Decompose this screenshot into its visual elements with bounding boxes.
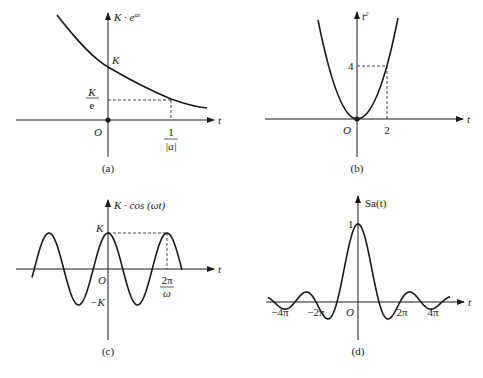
tick-K: K: [95, 222, 104, 234]
tick-period-den: ω: [163, 287, 171, 299]
tick-1-over-a-den: |a|: [165, 140, 177, 152]
x-axis-label: t: [468, 296, 472, 308]
panel-d-sampling-function: Sa(t) 1 O t −4π −2π 2π 4π (d): [266, 196, 472, 358]
origin-label: O: [98, 274, 106, 286]
exponential-curve: [57, 15, 207, 108]
tick-neg-K: −K: [90, 296, 105, 308]
origin-label: O: [343, 124, 351, 136]
tick-neg-4pi: −4π: [271, 306, 289, 318]
tick-4: 4: [348, 60, 354, 72]
tick-K-over-e-num: K: [87, 86, 96, 98]
panel-b-parabola: t2 4 2 O t (b): [265, 10, 471, 175]
tick-1: 1: [348, 218, 354, 230]
x-axis-label: t: [218, 114, 222, 126]
y-axis-label: K · cos (ωt): [113, 199, 165, 212]
x-axis-label: t: [467, 113, 471, 125]
panel-c-cosine: K · cos (ωt) K −K O t 2π ω (c): [16, 199, 222, 358]
panel-caption: (d): [352, 345, 365, 358]
tick-K: K: [111, 54, 120, 66]
panel-a-exponential: K · eat K K e O t 1 |a| (a): [16, 11, 222, 175]
x-axis-label: t: [218, 263, 222, 275]
tick-period-num: 2π: [161, 274, 173, 286]
tick-neg-2pi: −2π: [307, 306, 325, 318]
y-axis-label: Sa(t): [365, 197, 387, 210]
y-axis-label: K · eat: [113, 11, 141, 23]
tick-2pi: 2π: [396, 306, 408, 318]
tick-1-over-a-num: 1: [168, 126, 174, 138]
origin-dot: [354, 116, 359, 121]
panel-caption: (a): [102, 162, 115, 175]
figure-canvas: K · eat K K e O t 1 |a| (a) t2 4 2 O t (…: [0, 0, 483, 378]
tick-K-over-e-den: e: [90, 99, 95, 111]
origin-dot: [105, 117, 110, 122]
panel-caption: (c): [102, 345, 115, 358]
panel-caption: (b): [351, 162, 364, 175]
sa-curve: [268, 224, 450, 319]
parabola-curve: [318, 18, 398, 119]
tick-4pi: 4π: [427, 306, 439, 318]
tick-2: 2: [384, 124, 390, 136]
origin-label: O: [94, 126, 102, 138]
origin-label: O: [346, 306, 354, 318]
y-axis-label: t2: [362, 10, 369, 22]
